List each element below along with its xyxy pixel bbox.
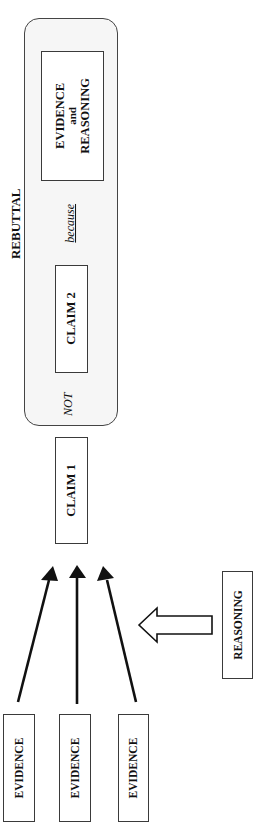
evidence-label-3: EVIDENCE (118, 714, 149, 822)
reasoning-label: REASONING (222, 571, 253, 679)
claim2-text: CLAIM 2 (65, 293, 78, 345)
not-connector: NOT (58, 386, 80, 422)
evidence-arrow-3 (97, 566, 136, 702)
evidence-reasoning-line2: and (67, 78, 79, 154)
because-connector: because (60, 192, 80, 254)
evidence-text-3: EVIDENCE (127, 738, 139, 799)
evidence-arrow-2 (69, 565, 86, 704)
rebuttal-title: REBUTTAL (6, 184, 26, 264)
evidence-arrow-1 (18, 566, 58, 702)
claim1-text: CLAIM 1 (65, 464, 78, 516)
rebuttal-title-text: REBUTTAL (9, 189, 23, 260)
not-text: NOT (63, 392, 76, 415)
evidence-label-1: EVIDENCE (3, 714, 35, 822)
evidence-label-2: EVIDENCE (59, 714, 91, 822)
claim1-label: CLAIM 1 (55, 437, 88, 544)
rebuttal-evidence-reasoning-label: EVIDENCE and REASONING (41, 51, 104, 181)
evidence-reasoning-line1: EVIDENCE (54, 78, 67, 154)
evidence-text-2: EVIDENCE (69, 738, 81, 799)
evidence-text-1: EVIDENCE (13, 738, 25, 799)
because-text: because (64, 204, 77, 243)
reasoning-hollow-arrow-icon (139, 608, 212, 642)
reasoning-text: REASONING (231, 590, 243, 660)
evidence-reasoning-line3: REASONING (78, 78, 91, 154)
claim2-label: CLAIM 2 (55, 265, 88, 373)
